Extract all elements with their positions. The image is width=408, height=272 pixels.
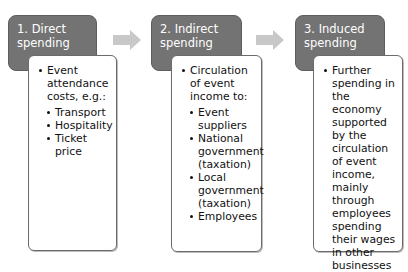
stage-2-sub-list: Event suppliers National government (tax… — [190, 106, 257, 223]
stage-1-sub-point: Transport — [47, 106, 112, 119]
stage-3-main-point: Further spending in the economy supporte… — [324, 64, 398, 272]
stage-3-body-box: Further spending in the economy supporte… — [313, 55, 403, 252]
stage-1-heading-line-1: 1. Direct — [17, 22, 88, 36]
arrow-right-icon — [256, 30, 284, 50]
stage-2-heading-line-2: spending — [160, 36, 233, 50]
stage-2-list: Circulation of event income to: Event su… — [182, 64, 257, 223]
stage-2-heading-line-1: 2. Indirect — [160, 22, 233, 36]
stage-2-body-box: Circulation of event income to: Event su… — [171, 55, 262, 252]
stage-1-heading-line-2: spending — [17, 36, 88, 50]
stage-1-body-box: Event attendance costs, e.g.: Transport … — [28, 55, 117, 251]
stage-2-main-point: Circulation of event income to: Event su… — [182, 64, 257, 223]
stage-2-sub-point: Employees — [190, 210, 257, 223]
stage-1-list: Event attendance costs, e.g.: Transport … — [39, 64, 112, 158]
stage-1-sub-list: Transport Hospitality Ticket price — [47, 106, 112, 158]
arrow-right-icon — [113, 30, 141, 50]
stage-2-sub-point: National government (taxation) — [190, 132, 257, 171]
stage-3-heading-line-2: spending — [304, 36, 376, 50]
stage-1-sub-point: Ticket price — [47, 132, 112, 158]
stage-1-main-point: Event attendance costs, e.g.: Transport … — [39, 64, 112, 158]
stage-2-sub-point: Event suppliers — [190, 106, 257, 132]
stage-2-sub-point: Local government (taxation) — [190, 171, 257, 210]
stage-3-heading-line-1: 3. Induced — [304, 22, 376, 36]
stage-1-sub-point: Hospitality — [47, 119, 112, 132]
stage-3-list: Further spending in the economy supporte… — [324, 64, 398, 272]
